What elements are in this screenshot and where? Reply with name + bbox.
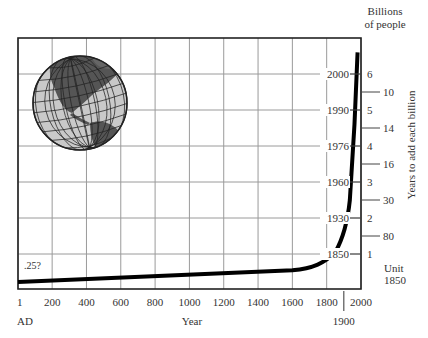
x-tick-label: 1400 [247,296,270,308]
billions-tick-label: 2 [367,212,373,224]
x-tick-label: 1800 [316,296,339,308]
year-label: 1990 [327,104,350,116]
billions-title-line2: of people [364,18,405,30]
billions-tick-label: 6 [367,68,373,80]
years-to-add-title: Years to add each billion [405,90,417,199]
year-label: 1960 [327,176,350,188]
unit-year-label: 1850 [384,274,407,286]
years-to-add-label: 10 [383,86,395,98]
years-to-add-label: 30 [383,194,395,206]
year-label: 2000 [327,68,350,80]
x-axis-title: Year [182,315,203,327]
years-to-add-label: 80 [383,230,395,242]
billions-tick-label: 4 [367,140,373,152]
year-label: 1850 [327,248,350,260]
unit-label: Unit [384,262,404,274]
years-to-add-label: 14 [383,122,395,134]
x-tick-label: 2000 [350,296,373,308]
x-tick-label: 400 [78,296,95,308]
year-label: 1930 [327,212,350,224]
years-to-add-label: 16 [383,158,395,170]
year-label: 1976 [327,140,350,152]
billions-tick-label: 1 [367,248,373,260]
x-tick-label: 200 [44,296,61,308]
start-annotation: .25? [24,260,42,271]
x-tick-label: 1000 [178,296,201,308]
x-tick-label: 800 [147,296,164,308]
billions-tick-label: 3 [367,176,373,188]
billions-tick-label: 5 [367,104,373,116]
x-tick-label: 1 [17,296,23,308]
x-tick-label: 1200 [213,296,236,308]
x-tick-1900: 1900 [333,315,356,327]
globe-icon [13,45,148,161]
chart-svg: 1200400600800100012001400160018002000190… [0,0,428,338]
x-tick-label: 600 [113,296,130,308]
billions-title: Billions [368,5,403,17]
x-tick-label: 1600 [281,296,304,308]
population-growth-chart: 1200400600800100012001400160018002000190… [0,0,428,338]
ad-label: AD [17,315,33,327]
